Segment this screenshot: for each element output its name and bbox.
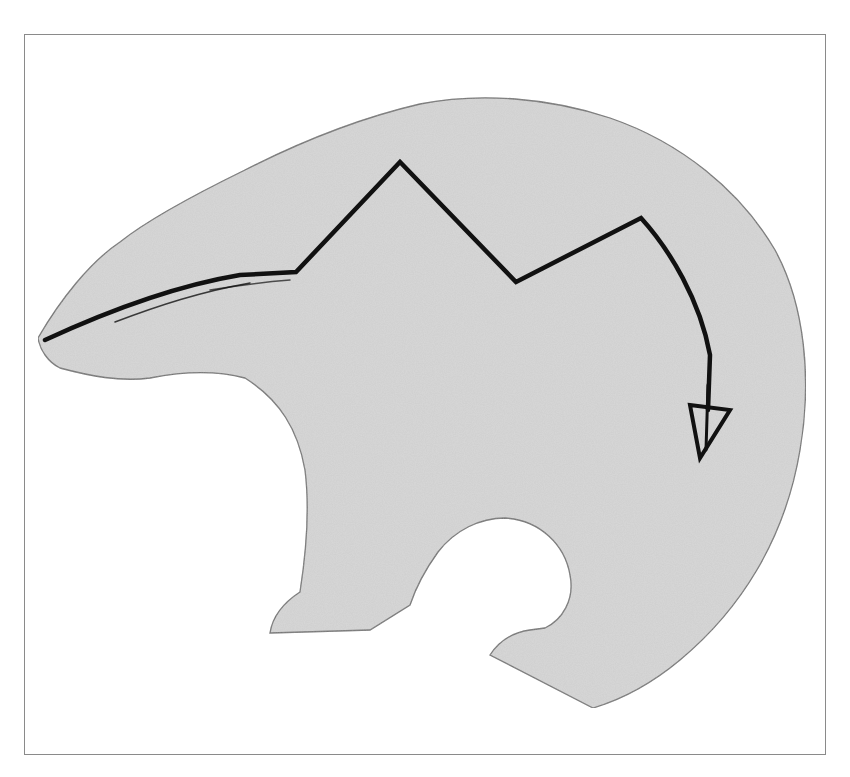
figure-illustration bbox=[0, 0, 850, 777]
bear-silhouette-icon bbox=[38, 98, 806, 708]
